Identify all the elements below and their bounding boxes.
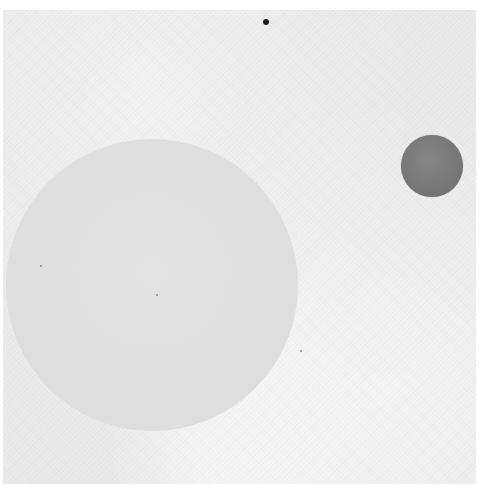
speck	[300, 350, 302, 352]
black-dot	[263, 19, 269, 25]
large-pale-circle	[6, 139, 298, 431]
speck	[156, 294, 158, 296]
small-dark-circle	[401, 135, 463, 197]
speck	[40, 265, 42, 267]
